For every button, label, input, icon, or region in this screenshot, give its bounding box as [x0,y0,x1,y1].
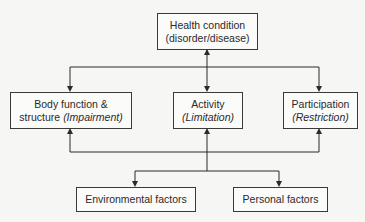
node-health-condition: Health condition (disorder/disease) [157,13,258,50]
participation-line2: (Restriction) [292,111,349,124]
personal-label: Personal factors [243,193,319,206]
body-line2-plain: structure [19,111,63,123]
activity-line1: Activity [191,98,224,111]
participation-line1: Participation [292,98,350,111]
body-line2: structure (Impairment) [19,111,122,124]
node-participation: Participation (Restriction) [283,92,358,129]
environmental-label: Environmental factors [85,193,187,206]
node-activity: Activity (Limitation) [173,92,243,129]
activity-line2: (Limitation) [182,111,234,124]
node-body-function: Body function & structure (Impairment) [10,92,132,129]
health-line1: Health condition [170,19,245,32]
node-personal-factors: Personal factors [233,187,328,212]
node-environmental-factors: Environmental factors [76,187,196,212]
health-line2: (disorder/disease) [165,32,249,45]
body-line1: Body function & [34,98,108,111]
body-line2-italic: (Impairment) [63,111,123,123]
